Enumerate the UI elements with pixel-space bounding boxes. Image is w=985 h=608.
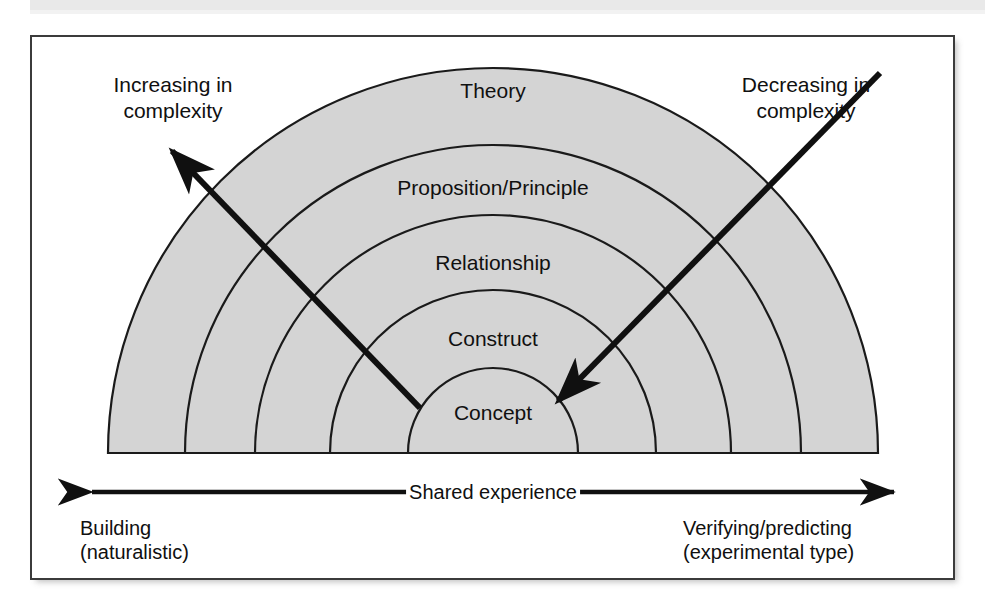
ring-label-proposition: Proposition/Principle: [397, 175, 588, 201]
ring-label-concept: Concept: [454, 400, 532, 426]
ring-label-relationship: Relationship: [435, 250, 551, 276]
axis-label-verifying: Verifying/predicting (experimental type): [683, 516, 854, 565]
decreasing-complexity-label: Decreasing in complexity: [742, 72, 870, 123]
ring-label-construct: Construct: [448, 326, 538, 352]
ring-label-theory: Theory: [460, 78, 525, 104]
increasing-complexity-label: Increasing in complexity: [113, 72, 232, 123]
axis-label-building: Building (naturalistic): [80, 516, 189, 565]
shared-experience-label: Shared experience: [406, 481, 580, 504]
